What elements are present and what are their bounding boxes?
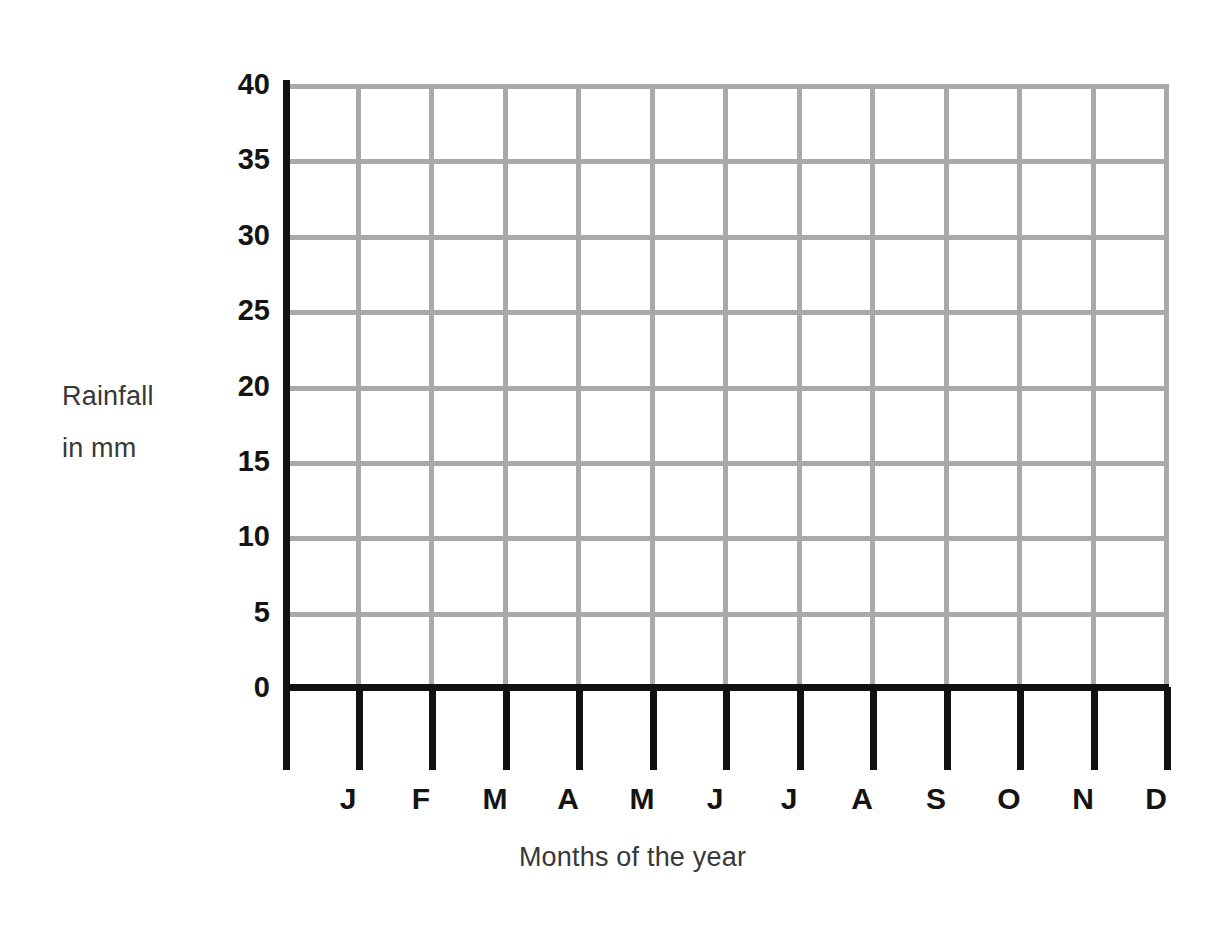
plot-area (285, 84, 1167, 687)
gridline-vertical (429, 84, 434, 687)
x-axis-tick (503, 687, 510, 770)
gridline-vertical (356, 84, 361, 687)
y-axis-tick-label: 40 (210, 69, 270, 99)
y-axis-tick-label: 15 (210, 446, 270, 476)
gridline-vertical (503, 84, 508, 687)
y-axis-tick-label: 0 (210, 672, 270, 702)
gridline-vertical (870, 84, 875, 687)
x-axis-title: Months of the year (0, 842, 1231, 873)
gridline-vertical (576, 84, 581, 687)
x-axis-tick-label: J (328, 783, 368, 815)
y-axis-tick-label: 10 (210, 521, 270, 551)
x-axis-tick (576, 687, 583, 770)
x-axis-tick-label: N (1063, 783, 1103, 815)
gridline-vertical (797, 84, 802, 687)
x-axis-tick-label: J (695, 783, 735, 815)
y-axis-title-line1: Rainfall (62, 381, 154, 411)
gridline-vertical (723, 84, 728, 687)
y-axis-tick-labels: 4035302520151050 (205, 0, 270, 936)
gridline-vertical (944, 84, 949, 687)
x-axis-tick (797, 687, 804, 770)
x-axis-tick-label: D (1136, 783, 1176, 815)
x-axis-tick-label: M (622, 783, 662, 815)
y-axis-title: Rainfall in mm (62, 370, 154, 474)
gridline-vertical (1017, 84, 1022, 687)
gridline-vertical (1164, 84, 1169, 687)
x-axis-tick (870, 687, 877, 770)
x-axis-tick (429, 687, 436, 770)
x-axis-tick-label: F (401, 783, 441, 815)
x-axis-tick-label: A (842, 783, 882, 815)
rainfall-chart: Rainfall in mm 4035302520151050 JFMAMJJA… (0, 0, 1231, 936)
y-axis-tick-label: 25 (210, 295, 270, 325)
x-axis-tick (944, 687, 951, 770)
y-axis-tick-label: 30 (210, 220, 270, 250)
x-axis-tick-label: S (916, 783, 956, 815)
x-axis-title-text: Months of the year (519, 842, 746, 873)
x-axis-tick (723, 687, 730, 770)
x-axis-tick-label: M (475, 783, 515, 815)
x-axis-tick (356, 687, 363, 770)
x-axis-tick-label: J (769, 783, 809, 815)
x-axis-tick-label: A (548, 783, 588, 815)
y-axis-title-line2: in mm (62, 422, 154, 474)
x-axis-tick-label: O (989, 783, 1029, 815)
gridline-vertical (1091, 84, 1096, 687)
x-axis-tick (1091, 687, 1098, 770)
y-axis-tick-label: 35 (210, 144, 270, 174)
x-axis-tick (1017, 687, 1024, 770)
x-axis-tick (1164, 687, 1171, 770)
gridline-vertical (650, 84, 655, 687)
y-axis-line (283, 80, 290, 770)
y-axis-tick-label: 5 (210, 597, 270, 627)
y-axis-tick-label: 20 (210, 371, 270, 401)
x-axis-tick (650, 687, 657, 770)
